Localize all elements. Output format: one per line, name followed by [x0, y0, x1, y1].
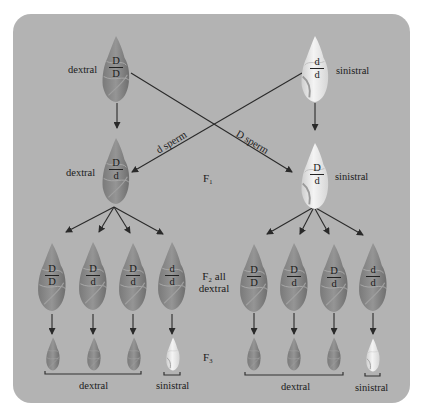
- bracket-left-sinistral: [164, 372, 180, 375]
- genotype-f2-left-1: D D: [45, 264, 59, 287]
- label-f3-right-sinistral: sinistral: [355, 382, 388, 393]
- label-f1-dextral: dextral: [66, 167, 95, 178]
- genotype-f2-right-4: d d: [366, 265, 380, 288]
- genotype-f2-right-3: D d: [327, 266, 341, 289]
- genotype-f2-right-1: D D: [247, 265, 261, 288]
- label-f1-sinistral: sinistral: [335, 171, 368, 182]
- genotype-f2-right-2: D d: [287, 265, 301, 288]
- bracket-left-dextral: [45, 371, 141, 374]
- genotype-f1-right: D d: [310, 163, 324, 186]
- bracket-right-sinistral: [365, 373, 380, 376]
- label-f3-left-dextral: dextral: [79, 380, 108, 391]
- label-f1: F₁: [203, 172, 213, 184]
- genotype-f2-left-3: D d: [126, 264, 140, 287]
- bracket-right-dextral: [245, 372, 343, 375]
- genotype-f2-left-4: d d: [165, 264, 179, 287]
- label-f2: F₂ all dextral: [194, 270, 234, 294]
- label-f3-right-dextral: dextral: [281, 381, 310, 392]
- shells-layer: [0, 0, 428, 418]
- label-parent-sinistral: sinistral: [336, 65, 369, 76]
- label-f3-left-sinistral: sinistral: [156, 380, 189, 391]
- label-parent-dextral: dextral: [68, 64, 97, 75]
- genotype-parent-left: D D: [109, 56, 123, 79]
- genotype-f2-left-2: D d: [86, 264, 100, 287]
- label-f3: F₃: [203, 351, 213, 363]
- genotype-f1-left: D d: [109, 158, 123, 181]
- genotype-parent-right: d d: [310, 57, 324, 80]
